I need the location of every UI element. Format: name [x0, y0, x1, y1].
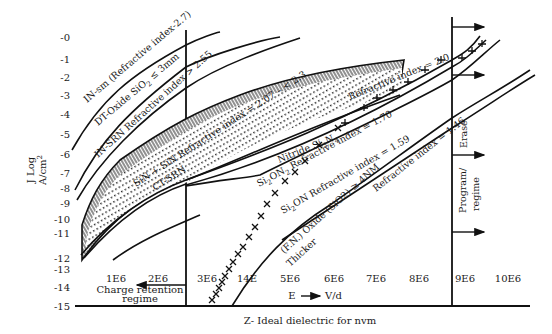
- x-tick: 5E6: [280, 273, 300, 284]
- y-tick: -3: [60, 90, 70, 101]
- y-tick: -15: [54, 301, 70, 312]
- y-tick: -8: [60, 183, 70, 194]
- x-axis-ticks: 1E6 2E6 3E6 14E 5E6 6E6 7E6 8E6 9E6 10E6: [106, 273, 521, 284]
- y-tick: -10: [54, 214, 70, 225]
- y-tick: -14: [54, 282, 70, 293]
- y-axis-ticks: -0 -1 -2 -3 -4 -5 -6 -7 -8 -9 -10 -11 -1…: [54, 32, 70, 312]
- x-tick: 8E6: [409, 273, 429, 284]
- x-tick: 2E6: [148, 273, 168, 284]
- dielectric-chart: -0 -1 -2 -3 -4 -5 -6 -7 -8 -9 -10 -11 -1…: [0, 0, 552, 334]
- x-axis-label-e: E: [288, 290, 295, 301]
- y-tick: -4: [60, 109, 70, 120]
- y-tick: -6: [60, 149, 70, 160]
- x-axis-label-unit: V/d: [324, 290, 343, 301]
- x-tick: 9E6: [455, 273, 475, 284]
- y-axis-label-line2: A/cm2: [36, 155, 48, 186]
- curve-fn-oxide: [113, 215, 200, 260]
- x-axis-label: E V/d: [288, 290, 342, 301]
- y-tick: -1: [60, 54, 70, 65]
- chart-caption: Z- Ideal dielectric for nvm: [244, 315, 377, 326]
- y-tick: -11: [54, 228, 70, 239]
- program-label-2: regime: [470, 177, 481, 211]
- y-tick: -2: [60, 72, 70, 83]
- y-axis-label: J Log A/cm2: [25, 155, 48, 186]
- y-tick: -0: [60, 32, 70, 43]
- program-label: Program/: [457, 167, 468, 213]
- y-axis-label-line1: J Log: [25, 156, 36, 184]
- x-tick: 1E6: [106, 273, 126, 284]
- x-tick: 6E6: [324, 273, 344, 284]
- x-tick: 3E6: [197, 273, 217, 284]
- y-tick: -13: [54, 264, 70, 275]
- y-tick: -9: [60, 198, 70, 209]
- x-tick: 10E6: [495, 273, 521, 284]
- x-tick: 7E6: [366, 273, 386, 284]
- y-tick: -12: [54, 253, 70, 264]
- y-tick: -5: [60, 129, 70, 140]
- y-tick: -7: [60, 168, 70, 179]
- charge-retention-label-2: regime: [122, 293, 158, 304]
